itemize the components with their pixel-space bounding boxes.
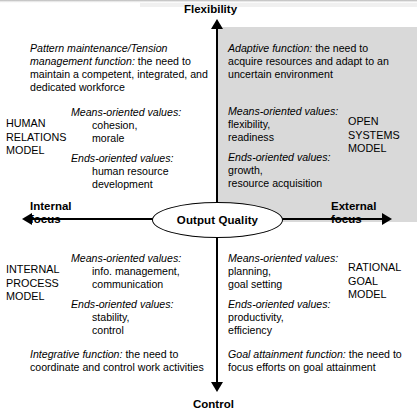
arrow-down-icon (211, 382, 223, 392)
internal-process-function-description: Integrative function: the need to coordi… (30, 348, 210, 374)
rational-goal-function-title: Goal attainment function: (228, 348, 346, 360)
center-node-label: Output Quality (177, 214, 258, 226)
human-relations-means-heading: Means-oriented values: (71, 106, 211, 119)
competing-values-framework-diagram: Flexibility Control Internal focus Exter… (0, 0, 417, 418)
internal-process-function-title: Integrative function: (30, 348, 122, 360)
human-relations-ends-values: human resource development (71, 165, 211, 191)
open-systems-ends-values: growth, resource acquisition (228, 164, 378, 190)
human-relations-function-description: Pattern maintenance/Tension management f… (30, 42, 210, 94)
internal-process-means-heading: Means-oriented values: (71, 252, 211, 265)
model-label-internal-process: INTERNAL PROCESS MODEL (6, 263, 59, 304)
internal-process-ends-values: stability, control (71, 311, 211, 337)
axis-label-external-focus: External focus (331, 200, 376, 226)
axis-label-flexibility: Flexibility (184, 3, 237, 16)
rational-goal-means-heading: Means-oriented values: (228, 252, 378, 265)
axis-label-internal-focus: Internal focus (30, 200, 72, 226)
rational-goal-ends-values: productivity, efficiency (228, 311, 378, 337)
rational-goal-ends-heading: Ends-oriented values: (228, 298, 378, 311)
human-relations-means-values: cohesion, morale (71, 119, 211, 145)
open-systems-function-description: Adaptive function: the need to acquire r… (228, 42, 400, 81)
arrow-right-icon (382, 213, 392, 225)
internal-process-values: Means-oriented values: info. management,… (71, 252, 211, 338)
rational-goal-function-description: Goal attainment function: the need to fo… (228, 348, 406, 374)
scan-artifact-strip-secondary (140, 3, 417, 7)
model-label-human-relations: HUMAN RELATIONS MODEL (6, 117, 66, 158)
internal-process-ends-heading: Ends-oriented values: (71, 298, 211, 311)
open-systems-means-heading: Means-oriented values: (228, 105, 378, 118)
spacer (71, 291, 211, 298)
center-output-quality-node: Output Quality (152, 202, 283, 238)
rational-goal-means-values: planning, goal setting (228, 265, 378, 291)
rational-goal-values: Means-oriented values: planning, goal se… (228, 252, 378, 338)
open-systems-function-title: Adaptive function: (228, 42, 312, 54)
open-systems-values: Means-oriented values: flexibility, read… (228, 105, 378, 191)
spacer (228, 291, 378, 298)
human-relations-values: Means-oriented values: cohesion, morale … (71, 106, 211, 192)
internal-process-means-values: info. management, communication (71, 265, 211, 291)
spacer (71, 145, 211, 152)
human-relations-ends-heading: Ends-oriented values: (71, 152, 211, 165)
open-systems-means-values: flexibility, readiness (228, 118, 378, 144)
open-systems-ends-heading: Ends-oriented values: (228, 151, 378, 164)
axis-label-control: Control (193, 398, 234, 411)
spacer (228, 144, 378, 151)
arrow-up-icon (211, 19, 223, 29)
